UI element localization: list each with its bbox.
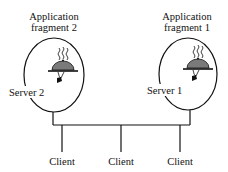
covered-dish-icon [183, 45, 213, 81]
client-label-1: Client [49, 156, 75, 167]
client-label-2: Client [108, 156, 134, 167]
server-1-ellipse [159, 38, 217, 110]
covered-dish-icon [48, 47, 78, 83]
fragment-1-title-line2: fragment 1 [164, 22, 210, 33]
fragment-2-title-line2: fragment 2 [31, 22, 77, 33]
fragment-1-title-line1: Application [162, 11, 212, 22]
fragment-2: Application fragment 2 Server 2 [8, 11, 84, 112]
client-server-diagram: Application fragment 2 Server 2 Applicat… [0, 0, 228, 172]
client-label-3: Client [167, 156, 193, 167]
server-1-label: Server 1 [147, 85, 182, 96]
fragment-1: Application fragment 1 Server 1 [146, 11, 217, 110]
network-bus [53, 110, 190, 152]
fragment-2-title-line1: Application [29, 11, 79, 22]
server-2-ellipse [24, 38, 84, 112]
server-2-label: Server 2 [9, 87, 44, 98]
